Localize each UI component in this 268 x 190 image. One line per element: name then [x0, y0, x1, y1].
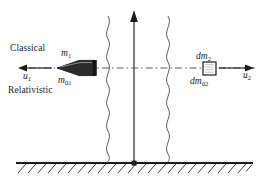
label-m1-var: m [61, 48, 68, 58]
vertical-axis-arrow [130, 10, 138, 163]
label-m1: m1 [61, 49, 71, 59]
label-m01-var: m [58, 75, 65, 85]
label-m01: m01 [58, 76, 71, 86]
figure-canvas: Classical Relativistic u1 m1 m01 dm2 dm0… [0, 0, 268, 190]
wavy-line-right [167, 16, 170, 163]
ground-pivot-marker [132, 161, 137, 166]
label-u2: u2 [243, 71, 251, 81]
label-classical: Classical [10, 44, 45, 54]
mass-element-box [203, 62, 216, 75]
projectile-bullet [57, 60, 96, 75]
label-dm02: dm02 [190, 77, 208, 87]
label-m01-sub: 01 [65, 79, 72, 86]
wavy-line-left [107, 16, 110, 163]
label-u2-sub: 2 [248, 74, 251, 81]
label-dm2: dm2 [196, 52, 211, 62]
label-u1-sub: 1 [28, 75, 31, 82]
label-dm2-sub: 2 [208, 55, 211, 62]
label-u1: u1 [23, 72, 31, 82]
label-dm02-var: dm [190, 76, 202, 86]
label-m1-sub: 1 [68, 52, 71, 59]
label-dm2-var: dm [196, 51, 208, 61]
label-dm02-sub: 02 [202, 80, 209, 87]
hatched-ground [16, 161, 253, 173]
label-relativistic: Relativistic [8, 86, 52, 96]
